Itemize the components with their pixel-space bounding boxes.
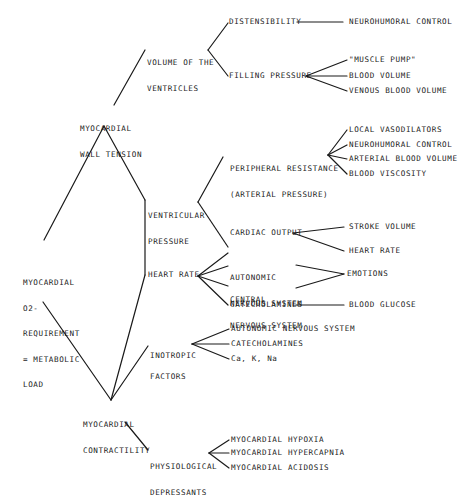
node-inotropic-factors: INOTROPIC FACTORS [150, 338, 197, 394]
edge-filling-musclepump [306, 60, 347, 76]
edge-central-emotions [296, 274, 344, 288]
node-label-line: O2- [23, 305, 80, 314]
node-blood-glucose: BLOOD GLUCOSE [349, 301, 416, 310]
node-stroke-volume: STROKE VOLUME [349, 223, 416, 232]
node-label-line: DEPRESSANTS [150, 489, 217, 498]
node-physiological-depressants: PHYSIOLOGICAL DEPRESSANTS [150, 446, 217, 499]
node-central-nervous-system: CENTRAL NERVOUS SYSTEM [230, 279, 302, 347]
node-heart-rate-leaf: HEART RATE [349, 247, 401, 256]
edge-walltension-volume [114, 50, 145, 105]
node-myocardial-hypoxia: MYOCARDIAL HYPOXIA [231, 436, 324, 445]
node-muscle-pump: "MUSCLE PUMP" [349, 56, 416, 65]
node-heart-rate: HEART RATE [148, 271, 200, 280]
node-label-line: REQUIREMENT [23, 330, 80, 339]
node-local-vasodilators: LOCAL VASODILATORS [349, 126, 442, 135]
node-venous-blood-volume: VENOUS BLOOD VOLUME [349, 87, 447, 96]
node-label-line: PERIPHERAL RESISTANCE [230, 165, 339, 174]
node-blood-volume: BLOOD VOLUME [349, 72, 411, 81]
edge-heartrate-autonomic [198, 266, 228, 276]
node-label-line: FACTORS [150, 373, 197, 380]
edge-heartrate-contractility [111, 275, 145, 400]
node-myocardial-contractility: MYOCARDIAL CONTRACTILITY [83, 404, 150, 472]
node-label-line: LOAD [23, 381, 80, 390]
node-catecholamines-2: CATECHOLAMINES [231, 340, 303, 349]
node-catecholamines-1: CATECHOLAMINES [230, 301, 302, 310]
node-myocardial-hypercapnia: MYOCARDIAL HYPERCAPNIA [231, 449, 345, 458]
node-label-line: INOTROPIC [150, 352, 197, 359]
node-myocardial-acidosis: MYOCARDIAL ACIDOSIS [231, 464, 329, 473]
node-myocardial-wall-tension: MYOCARDIAL WALL TENSION [80, 108, 142, 176]
edge-inotropic-ions [192, 344, 229, 359]
node-myocardial-o2-requirement: MYOCARDIAL O2- REQUIREMENT = METABOLIC L… [23, 262, 80, 407]
node-label-line: PRESSURE [148, 238, 205, 247]
node-ions: Ca, K, Na [231, 355, 278, 364]
node-label-line: (ARTERIAL PRESSURE) [230, 191, 339, 200]
node-neurohumoral-control-1: NEUROHUMORAL CONTROL [349, 18, 452, 27]
node-label-line: CONTRACTILITY [83, 447, 150, 456]
node-emotions: EMOTIONS [347, 270, 388, 279]
edge-autonomic-emotions [296, 265, 344, 274]
node-label-line: = METABOLIC [23, 356, 80, 365]
node-label-line: VOLUME OF THE [147, 59, 214, 68]
node-neurohumoral-control-2: NEUROHUMORAL CONTROL [349, 141, 452, 150]
edge-contractility-inotropic [111, 346, 148, 400]
edge-filling-venous [306, 76, 347, 91]
node-arterial-blood-volume: ARTERIAL BLOOD VOLUME [349, 155, 458, 164]
node-label-line: MYOCARDIAL [80, 125, 142, 134]
node-label-line: PHYSIOLOGICAL [150, 463, 217, 472]
node-volume-of-ventricles: VOLUME OF THE VENTRICLES [147, 42, 214, 110]
node-distensibility: DISTENSIBILITY [229, 18, 301, 27]
edge-heartrate-catecholamines [198, 276, 228, 305]
node-label-line: VENTRICLES [147, 85, 214, 94]
edge-inotropic-autonomic [192, 329, 229, 344]
node-cardiac-output: CARDIAC OUTPUT [230, 229, 302, 238]
node-label-line: MYOCARDIAL [83, 421, 150, 430]
node-ventricular-pressure: VENTRICULAR PRESSURE [148, 195, 205, 263]
node-label-line: MYOCARDIAL [23, 279, 80, 288]
node-autonomic-nervous-system-full: AUTONOMIC NERVOUS SYSTEM [231, 325, 355, 334]
node-label-line: WALL TENSION [80, 151, 142, 160]
node-blood-viscosity: BLOOD VISCOSITY [349, 170, 427, 179]
node-label-line: VENTRICULAR [148, 212, 205, 221]
node-filling-pressure: FILLING PRESSURE [229, 72, 312, 81]
node-peripheral-resistance: PERIPHERAL RESISTANCE (ARTERIAL PRESSURE… [230, 148, 339, 216]
